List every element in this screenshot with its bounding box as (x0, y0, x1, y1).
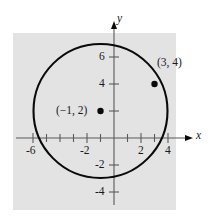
x-tick-label-2: 2 (138, 145, 144, 157)
y-axis-label: y (117, 13, 122, 25)
y-tick-label-neg4: -4 (95, 186, 105, 198)
center-point-label: (−1, 2) (56, 105, 87, 117)
center-point-marker (97, 108, 103, 114)
y-tick-label-4: 4 (99, 78, 105, 90)
point-3-4-marker (151, 81, 157, 87)
circle-graph-figure: x y -6 -2 2 4 6 4 -2 -4 (−1, 2) (3, 4) (0, 0, 209, 223)
y-tick-label-neg2: -2 (95, 159, 105, 171)
x-tick-label-neg2: -2 (80, 145, 90, 157)
y-tick-label-6: 6 (99, 51, 105, 63)
point-3-4-label: (3, 4) (157, 57, 182, 69)
x-tick-label-neg6: -6 (26, 145, 36, 157)
x-axis-arrow (185, 135, 193, 141)
x-axis-label: x (196, 130, 201, 142)
x-tick-label-4: 4 (165, 145, 171, 157)
